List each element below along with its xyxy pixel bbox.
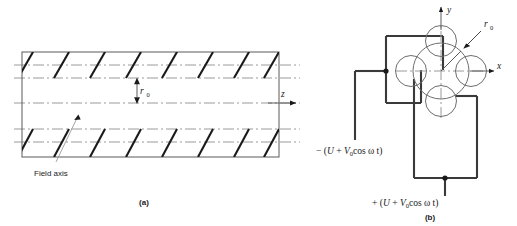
vane-line (162, 129, 177, 157)
r0-label-a: r (140, 86, 144, 96)
z-axis-label: z (280, 89, 285, 99)
junction-dot-positive (442, 175, 447, 180)
vane-line (198, 129, 213, 157)
junction-dot-negative (383, 68, 388, 73)
wiring-positive (414, 79, 477, 196)
vane-lines-lower (18, 129, 279, 157)
field-axis-arrowhead (74, 115, 81, 121)
voltage-positive-text: + (U + V0cos ω t) (372, 198, 438, 209)
r0-callout-b: r 0 (463, 19, 493, 49)
r0-arrowhead-b (463, 43, 470, 48)
voltage-neg-sign: − ( (316, 146, 327, 157)
field-axis-label: Field axis (34, 169, 68, 178)
voltage-positive-label: + (U + V0cos ω t) (372, 198, 438, 209)
y-axis-label: y (446, 5, 452, 15)
field-axis-callout: Field axis (34, 115, 81, 178)
r0-leader-line-b (466, 31, 481, 46)
voltage-neg-plus: + (334, 146, 344, 156)
vane-line (234, 129, 249, 157)
panel-a-label: (a) (139, 198, 149, 207)
field-lines-group (14, 65, 300, 142)
vane-line (54, 129, 69, 157)
r0-label-a-subscript: 0 (147, 91, 150, 98)
quadrupole-figure: r 0 z Field axis (a) (0, 0, 517, 226)
vane-line (264, 129, 279, 157)
panel-b: x y r 0 (316, 5, 502, 222)
r0-label-b: r (484, 19, 488, 29)
r0-dimension-a: r 0 (134, 78, 150, 105)
voltage-pos-rf: cos ω t (409, 198, 436, 208)
voltage-neg-close: ) (379, 146, 382, 157)
r0-arrowhead-up (134, 78, 140, 85)
r0-label-b-subscript: 0 (490, 24, 493, 31)
panel-b-label: (b) (425, 213, 436, 222)
panel-a: r 0 z Field axis (a) (14, 52, 300, 207)
vane-line (18, 129, 33, 157)
voltage-pos-sign: + ( (372, 198, 383, 209)
field-axis-leader-line (56, 118, 77, 162)
figure-root: r 0 z Field axis (a) (0, 0, 517, 226)
voltage-negative-label: − (U + V0cos ω t) (316, 146, 382, 157)
voltage-negative-text: − (U + V0cos ω t) (316, 146, 382, 157)
vane-line (126, 129, 141, 157)
x-axis-label: x (496, 61, 502, 71)
z-axis-a: z (268, 89, 296, 103)
voltage-pos-plus: + (390, 198, 400, 208)
voltage-pos-close: ) (435, 198, 438, 209)
voltage-neg-rf: cos ω t (353, 146, 380, 156)
vane-line (90, 129, 105, 157)
